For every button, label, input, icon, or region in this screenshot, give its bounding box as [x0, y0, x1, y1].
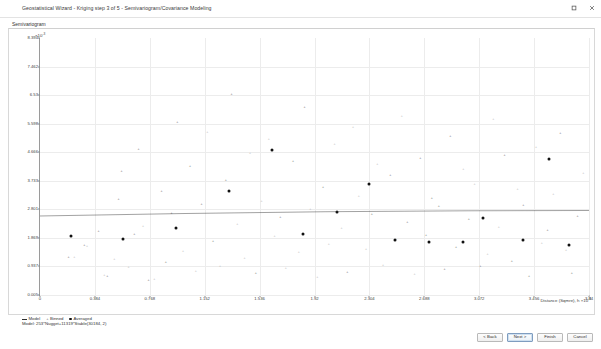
x-tick-label: 2.688 [419, 297, 429, 301]
x-axis-title: Distance (Sqmre), h ×10-3 [540, 297, 591, 303]
close-window-button[interactable] [588, 4, 595, 11]
geostatistical-wizard-window: Geostatistical Wizard - Kriging step 3 o… [0, 0, 601, 349]
x-tick-label: 0.384 [90, 297, 100, 301]
x-tick-label: 3.072 [474, 297, 484, 301]
legend-dot-icon [69, 318, 72, 321]
chart-area: ×10-3 Distance (Sqmre), h ×10-3 00.3840.… [9, 29, 594, 314]
cancel-button[interactable]: Cancel [567, 333, 593, 342]
x-tick-label: 1.536 [254, 297, 264, 301]
model-note: Model: 253*Nugget+11319*Stable(30184, 2) [22, 322, 595, 327]
y-tick-label: 2.801 [28, 207, 38, 211]
legend-line-icon [22, 319, 27, 320]
gridline-vertical [589, 38, 590, 295]
panel-title: Semivariogram [12, 22, 595, 27]
x-tick-label: 2.304 [364, 297, 374, 301]
x-tick-label: 1.152 [199, 297, 209, 301]
x-tick-label: 0 [39, 297, 41, 301]
y-tick-label: 8.394 [28, 36, 38, 40]
x-tick-label: 0.768 [145, 297, 155, 301]
next-button[interactable]: Next > [507, 333, 533, 342]
y-tick-label: 3.733 [28, 179, 38, 183]
x-axis-label-text: Distance (Sqmre), h [540, 298, 579, 303]
back-button[interactable]: < Back [477, 333, 503, 342]
chart-frame: ×10-3 Distance (Sqmre), h ×10-3 00.3840.… [8, 28, 595, 315]
y-tick-label: 0.005 [28, 293, 38, 297]
x-tick-label: 3.84 [585, 297, 593, 301]
x-tick-label: 3.456 [529, 297, 539, 301]
y-tick-label: 6.53 [30, 93, 38, 97]
wizard-footer: < BackNext >FinishCancel [0, 327, 601, 349]
window-title: Geostatistical Wizard - Kriging step 3 o… [22, 6, 212, 11]
y-tick-label: 5.598 [28, 121, 38, 125]
title-bar: Geostatistical Wizard - Kriging step 3 o… [0, 0, 601, 18]
y-tick-label: 1.869 [28, 236, 38, 240]
restore-window-button[interactable] [570, 4, 577, 11]
model-line [40, 38, 589, 295]
window-controls [570, 4, 595, 11]
finish-button[interactable]: Finish [537, 333, 563, 342]
x-tick-label: 1.92 [310, 297, 318, 301]
chart-legend: Model+BinnedAveraged [22, 317, 595, 321]
y-tick-label: 7.462 [28, 64, 38, 68]
scatter-plot[interactable]: 00.3840.7681.1521.5361.922.3042.6883.072… [39, 38, 589, 296]
semivariogram-panel: Semivariogram ×10-3 Distance (Sqmre), h … [8, 21, 595, 327]
y-tick-label: 4.666 [28, 150, 38, 154]
y-tick-label: 0.937 [28, 264, 38, 268]
y-exponent-power: -3 [42, 32, 45, 36]
